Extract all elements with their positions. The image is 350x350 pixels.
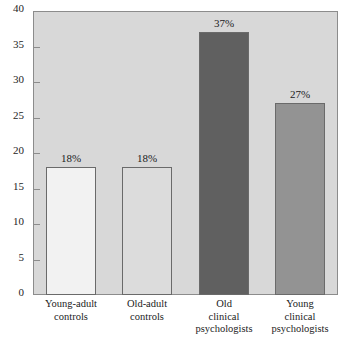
- x-axis-category-label: Youngclinicalpsychologists: [262, 298, 338, 336]
- y-axis: 0510152025303540: [0, 0, 33, 296]
- y-axis-tick-label: 15: [13, 181, 24, 192]
- x-axis-category-line: controls: [109, 311, 185, 324]
- y-axis-tick-mark: [33, 47, 40, 48]
- bar: 18%: [46, 167, 96, 295]
- bar: 27%: [275, 103, 325, 295]
- y-axis-tick-mark: [33, 260, 40, 261]
- x-axis-category-line: clinical: [186, 311, 262, 324]
- y-axis-tick-label: 35: [13, 39, 24, 50]
- x-axis-category-label: Oldclinicalpsychologists: [186, 298, 262, 336]
- x-axis-category-line: Old-adult: [109, 298, 185, 311]
- x-axis-category-line: Young: [262, 298, 338, 311]
- y-axis-tick-mark: [33, 189, 40, 190]
- y-axis-tick-mark: [33, 118, 40, 119]
- y-axis-tick-mark: [33, 82, 40, 83]
- bar: 37%: [199, 32, 249, 295]
- x-axis-category-line: controls: [33, 311, 109, 324]
- bar-value-label: 18%: [61, 152, 81, 164]
- bar-value-label: 18%: [137, 152, 157, 164]
- y-axis-tick-label: 5: [19, 252, 25, 263]
- y-axis-tick-label: 10: [13, 216, 24, 227]
- y-axis-tick-mark: [33, 224, 40, 225]
- x-axis-category-line: psychologists: [262, 323, 338, 336]
- bar-value-label: 27%: [290, 88, 310, 100]
- y-axis-tick-label: 30: [13, 74, 24, 85]
- y-axis-tick-mark: [33, 11, 40, 12]
- x-axis-category-labels: Young-adultcontrolsOld-adultcontrolsOldc…: [33, 298, 338, 348]
- x-axis-category-line: psychologists: [186, 323, 262, 336]
- bar-value-label: 37%: [214, 17, 234, 29]
- y-axis-tick-label: 20: [13, 145, 24, 156]
- x-axis-category-label: Young-adultcontrols: [33, 298, 109, 323]
- y-axis-tick-label: 40: [13, 3, 24, 14]
- x-axis-category-label: Old-adultcontrols: [109, 298, 185, 323]
- bar-chart: 0510152025303540 18%18%37%27% Young-adul…: [0, 0, 350, 350]
- x-axis-category-line: Old: [186, 298, 262, 311]
- y-axis-tick-label: 0: [19, 287, 25, 298]
- y-axis-tick-mark: [33, 153, 40, 154]
- y-axis-tick-label: 25: [13, 110, 24, 121]
- bar: 18%: [122, 167, 172, 295]
- x-axis-category-line: clinical: [262, 311, 338, 324]
- x-axis-category-line: Young-adult: [33, 298, 109, 311]
